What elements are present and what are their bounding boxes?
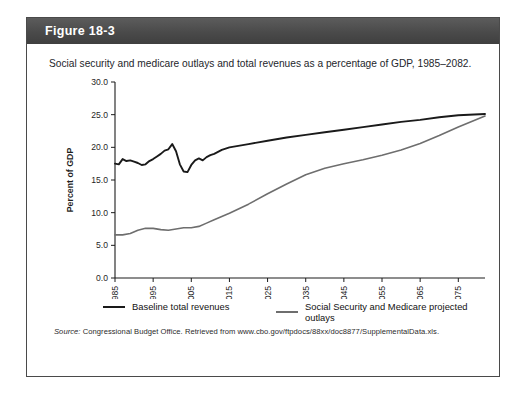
figure-caption: Social security and medicare outlays and… bbox=[27, 44, 499, 70]
source-note: Source: Congressional Budget Office. Ret… bbox=[27, 321, 499, 336]
x-tick-label: 2005 bbox=[186, 286, 196, 299]
legend-item-baseline-total-revenues: Baseline total revenues bbox=[103, 301, 229, 312]
figure-number-label: Figure 18-3 bbox=[45, 24, 115, 38]
legend-item-ss-medicare-outlays: Social Security and Medicare projected o… bbox=[276, 301, 499, 323]
x-tick-label: 2015 bbox=[224, 286, 234, 299]
y-tick-label: 0.0 bbox=[96, 273, 108, 283]
y-tick-label: 25.0 bbox=[91, 110, 108, 120]
y-tick-label: 30.0 bbox=[91, 77, 108, 87]
source-text: Congressional Budget Office. Retrieved f… bbox=[83, 327, 439, 336]
series-line-0 bbox=[115, 114, 485, 172]
y-tick-label: 5.0 bbox=[96, 241, 108, 251]
legend-swatch-outlays bbox=[276, 311, 298, 313]
x-tick-label: 2035 bbox=[301, 286, 311, 299]
y-tick-label: 20.0 bbox=[91, 143, 108, 153]
x-tick-label: 1995 bbox=[148, 286, 158, 299]
x-tick-label: 2075 bbox=[453, 286, 463, 299]
x-tick-label: 2055 bbox=[377, 286, 387, 299]
legend-label-revenues: Baseline total revenues bbox=[132, 301, 229, 312]
x-tick-label: 2065 bbox=[415, 286, 425, 299]
y-axis-title: Percent of GDP bbox=[65, 148, 75, 213]
figure-panel: Figure 18-3 Social security and medicare… bbox=[26, 17, 500, 377]
line-chart-svg: 0.05.010.015.020.025.030.019851995200520… bbox=[27, 74, 501, 299]
chart-plot-area: 0.05.010.015.020.025.030.019851995200520… bbox=[27, 74, 501, 299]
chart-legend: Baseline total revenues Social Security … bbox=[27, 301, 499, 321]
legend-label-outlays: Social Security and Medicare projected o… bbox=[305, 301, 499, 323]
x-tick-label: 1985 bbox=[110, 286, 120, 299]
y-tick-label: 15.0 bbox=[91, 175, 108, 185]
x-tick-label: 2025 bbox=[263, 286, 273, 299]
x-tick-label: 2045 bbox=[339, 286, 349, 299]
series-line-1 bbox=[115, 116, 485, 235]
source-label: Source: bbox=[54, 327, 81, 336]
figure-header-bar: Figure 18-3 bbox=[27, 18, 499, 44]
legend-swatch-revenues bbox=[103, 306, 125, 308]
y-tick-label: 10.0 bbox=[91, 208, 108, 218]
